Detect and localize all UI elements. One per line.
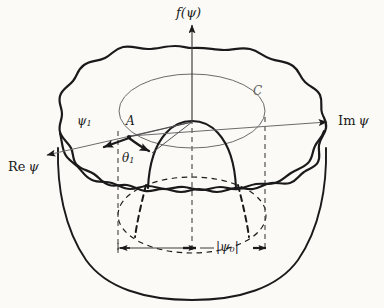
bowl-outer-left-wall — [58, 148, 326, 300]
contour-C-symbol: C — [253, 84, 262, 98]
mexican-hat-potential-figure: f(ψ) Imψ Reψ ψ1 A θ1 C |ψ0| — [0, 0, 384, 308]
point-A-label: A — [126, 115, 135, 127]
psi0-magnitude-label: |ψ0| — [216, 241, 239, 254]
psi1-symbol: ψ — [77, 114, 86, 128]
psi1-vector-label: ψ1 — [77, 115, 92, 128]
theta1-subscript: 1 — [129, 155, 134, 165]
central-hump-hidden-left — [135, 185, 146, 237]
psi1-subscript: 1 — [86, 118, 91, 128]
psi0-close-bar: | — [235, 240, 239, 254]
central-hump-hidden-right — [238, 185, 249, 237]
re-axis-psi: ψ — [28, 159, 38, 174]
vertical-axis-label-text: f(ψ) — [176, 5, 201, 20]
theta1-angle-label: θ1 — [122, 152, 134, 165]
potential-diagram-svg — [0, 0, 384, 308]
outer-rim-wavy — [59, 46, 326, 192]
re-axis-label: Reψ — [8, 160, 39, 173]
vertical-axis-label: f(ψ) — [176, 6, 201, 19]
contour-C-label: C — [253, 85, 262, 97]
im-axis-psi: ψ — [358, 113, 368, 128]
point-A-symbol: A — [126, 114, 135, 128]
re-axis-prefix: Re — [8, 159, 25, 174]
im-axis-prefix: Im — [338, 113, 355, 128]
im-axis-label: Imψ — [338, 114, 369, 127]
point-A-marker — [127, 135, 131, 139]
